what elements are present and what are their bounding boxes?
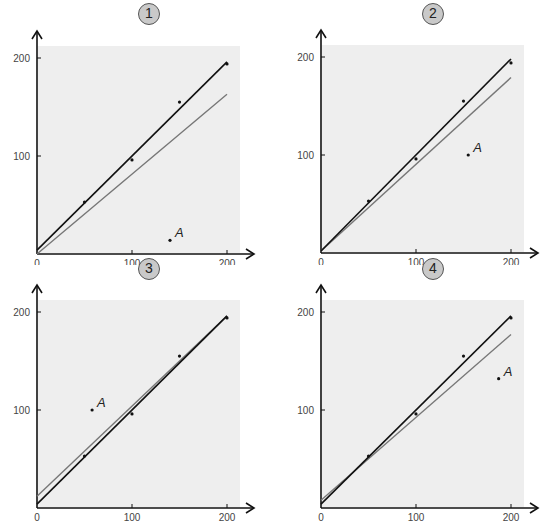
data-point xyxy=(83,200,86,203)
point-a-label: A xyxy=(96,395,106,410)
chart-panel-1: 1 0100200100200A xyxy=(0,0,270,265)
x-tick-label: 0 xyxy=(34,512,40,523)
data-point xyxy=(462,100,465,103)
y-tick-label: 200 xyxy=(13,307,30,318)
point-a-label: A xyxy=(472,140,482,155)
x-tick-label: 100 xyxy=(124,512,141,523)
chart-panel-2: 2 0100200100200A xyxy=(284,0,541,265)
chart-panel-4: 4 0100200100200A xyxy=(284,255,541,520)
x-tick-label: 100 xyxy=(408,512,425,523)
y-tick-label: 200 xyxy=(297,52,314,63)
x-tick-label: 200 xyxy=(503,512,520,523)
chart-panel-3: 3 0100200100200A xyxy=(0,255,270,520)
y-tick-label: 100 xyxy=(297,405,314,416)
data-point xyxy=(509,316,512,319)
data-point xyxy=(509,61,512,64)
data-point xyxy=(367,199,370,202)
x-tick-label: 0 xyxy=(318,512,324,523)
chart-4-plot: 0100200100200A xyxy=(284,255,541,531)
data-point xyxy=(225,62,228,65)
data-point xyxy=(414,157,417,160)
chart-1-plot: 0100200100200A xyxy=(0,0,270,265)
chart-3-plot: 0100200100200A xyxy=(0,255,270,531)
point-a xyxy=(168,239,171,242)
data-point xyxy=(130,158,133,161)
data-point xyxy=(130,412,133,415)
y-tick-label: 200 xyxy=(297,307,314,318)
y-tick-label: 100 xyxy=(13,405,30,416)
data-point xyxy=(462,355,465,358)
chart-2-plot: 0100200100200A xyxy=(284,0,541,265)
y-tick-label: 100 xyxy=(297,150,314,161)
x-tick-label: 200 xyxy=(219,512,236,523)
data-point xyxy=(178,355,181,358)
point-a xyxy=(467,153,470,156)
y-tick-label: 100 xyxy=(13,151,30,162)
point-a xyxy=(497,377,500,380)
data-point xyxy=(178,101,181,104)
y-tick-label: 200 xyxy=(13,53,30,64)
data-point xyxy=(225,316,228,319)
data-point xyxy=(83,454,86,457)
data-point xyxy=(367,454,370,457)
data-point xyxy=(414,412,417,415)
point-a xyxy=(91,408,94,411)
point-a-label: A xyxy=(174,225,184,240)
point-a-label: A xyxy=(503,364,513,379)
